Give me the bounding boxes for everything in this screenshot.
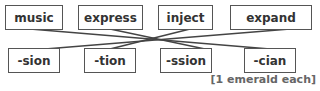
word-box-inject: inject [158,5,213,30]
suffix-box-sion: -sion [8,48,60,73]
marks-label: [1 emerald each] [211,73,316,86]
word-box-express: express [78,5,143,30]
word-box-music: music [5,5,63,30]
suffix-box-ssion: -ssion [160,48,212,73]
word-box-expand: expand [230,5,312,30]
suffix-box-cian: -cian [244,48,296,73]
suffix-box-tion: -tion [84,48,136,73]
